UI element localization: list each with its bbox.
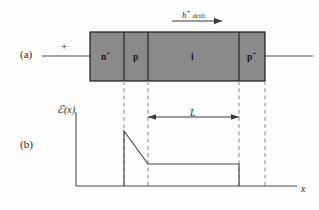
panel-tag-a: (a)	[20, 49, 32, 60]
length-dimension-arrowhead-left	[148, 114, 156, 120]
panel-tag-b: (b)	[20, 139, 33, 150]
figure-root: (a) (b) + h+ drift n+ p i p+ ℰ(x) L x	[0, 0, 319, 210]
region-label-i-base: i	[191, 52, 194, 62]
drift-arrow-head	[214, 18, 222, 24]
region-label-p-plus: p+	[247, 51, 256, 63]
figure-canvas	[0, 0, 319, 210]
drift-label-superscript: +	[187, 8, 191, 15]
field-axis-label-argument: (x)	[64, 104, 75, 115]
region-label-n-plus: n+	[101, 51, 110, 63]
terminal-plus-sign: +	[61, 41, 67, 52]
length-dimension-label: L	[190, 108, 196, 118]
region-label-p-base: p	[133, 52, 138, 62]
drift-arrow-label: h+ drift	[182, 9, 205, 20]
region-label-i: i	[191, 51, 194, 63]
electric-field-profile-curve	[124, 131, 239, 186]
drift-label-word: drift	[192, 12, 205, 20]
length-dimension-arrowhead-right	[231, 114, 239, 120]
field-axis-label: ℰ(x)	[57, 104, 75, 115]
x-axis-label: x	[301, 184, 305, 194]
field-axis-label-symbol: ℰ	[57, 103, 64, 116]
region-label-n-plus-sup: +	[106, 50, 110, 58]
region-label-p: p	[133, 51, 138, 63]
region-label-p-plus-sup: +	[252, 50, 256, 58]
